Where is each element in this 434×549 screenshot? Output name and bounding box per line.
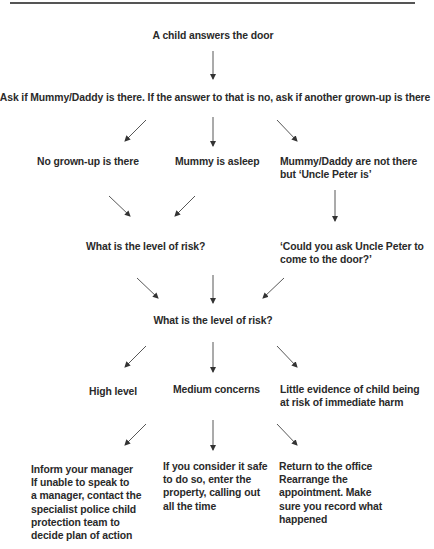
- medium-concerns-node: Medium concerns: [173, 384, 260, 397]
- uncle-peter-node: Mummy/Daddy are not there but ‘Uncle Pet…: [280, 156, 417, 181]
- level-of-risk-node-1: What is the level of risk?: [86, 241, 205, 254]
- mummy-asleep-node: Mummy is asleep: [175, 156, 260, 169]
- little-evidence-node: Little evidence of child being at risk o…: [280, 384, 420, 409]
- no-grownup-node: No grown-up is there: [37, 156, 139, 169]
- high-action-node: Inform your manager If unable to speak t…: [31, 463, 141, 542]
- little-action-node: Return to the office Rearrange the appoi…: [279, 460, 382, 526]
- start-node: A child answers the door: [153, 30, 274, 43]
- arrow-down-right-icon: [277, 346, 297, 367]
- medium-action-node: If you consider it safe to do so, enter …: [163, 460, 268, 513]
- arrow-down-left-icon: [125, 346, 146, 367]
- arrow-down-right-icon: [277, 424, 297, 445]
- arrow-down-right-icon: [137, 278, 158, 298]
- ask-uncle-node: ‘Could you ask Uncle Peter to come to th…: [280, 241, 424, 266]
- arrow-down-left-icon: [263, 278, 284, 298]
- arrow-down-right-icon: [277, 120, 297, 141]
- arrow-down-right-icon: [109, 196, 130, 216]
- ask-node: Ask if Mummy/Daddy is there. If the answ…: [0, 92, 430, 105]
- arrow-down-left-icon: [125, 424, 146, 445]
- level-of-risk-node-2: What is the level of risk?: [153, 315, 272, 328]
- arrow-down-left-icon: [125, 120, 146, 141]
- high-level-node: High level: [89, 386, 137, 399]
- arrow-down-left-icon: [175, 196, 195, 216]
